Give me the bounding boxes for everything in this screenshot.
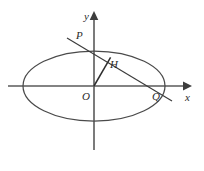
y-axis-arrowhead — [90, 11, 99, 20]
x-axis-label: x — [185, 92, 190, 103]
point-label-p: P — [76, 30, 83, 41]
point-label-h: H — [110, 59, 118, 70]
x-axis-arrowhead — [183, 82, 192, 91]
geometry-figure: y x P H O Q — [0, 0, 204, 171]
point-label-q: Q — [152, 91, 160, 102]
y-axis-label: y — [84, 11, 89, 22]
point-label-o: O — [82, 91, 90, 102]
segment-oh — [94, 57, 111, 86]
geometry-canvas — [0, 0, 204, 171]
